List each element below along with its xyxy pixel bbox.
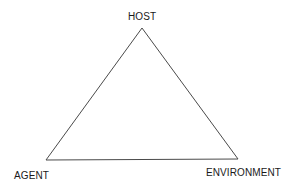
node-label-environment: ENVIRONMENT bbox=[206, 167, 281, 178]
node-label-agent: AGENT bbox=[14, 170, 49, 181]
triangle-diagram: HOST AGENT ENVIRONMENT bbox=[0, 0, 295, 189]
node-label-host: HOST bbox=[128, 11, 156, 22]
triangle-shape bbox=[0, 0, 295, 189]
edge-host-agent bbox=[46, 28, 142, 160]
edge-environment-host bbox=[142, 28, 238, 159]
edge-agent-environment bbox=[46, 159, 238, 160]
